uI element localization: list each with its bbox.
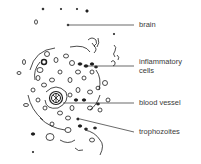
label-trophozoites: trophozoites [139, 128, 180, 136]
label-cells: cells [139, 67, 154, 75]
label-brain: brain [139, 21, 156, 29]
tissue-drawing [17, 8, 119, 155]
label-blood-vessel: blood vessel [139, 99, 181, 107]
label-inflammatory: inflammatory [139, 58, 182, 66]
blood-vessel-drawing [45, 87, 67, 108]
brain-tissue-diagram [0, 0, 201, 164]
